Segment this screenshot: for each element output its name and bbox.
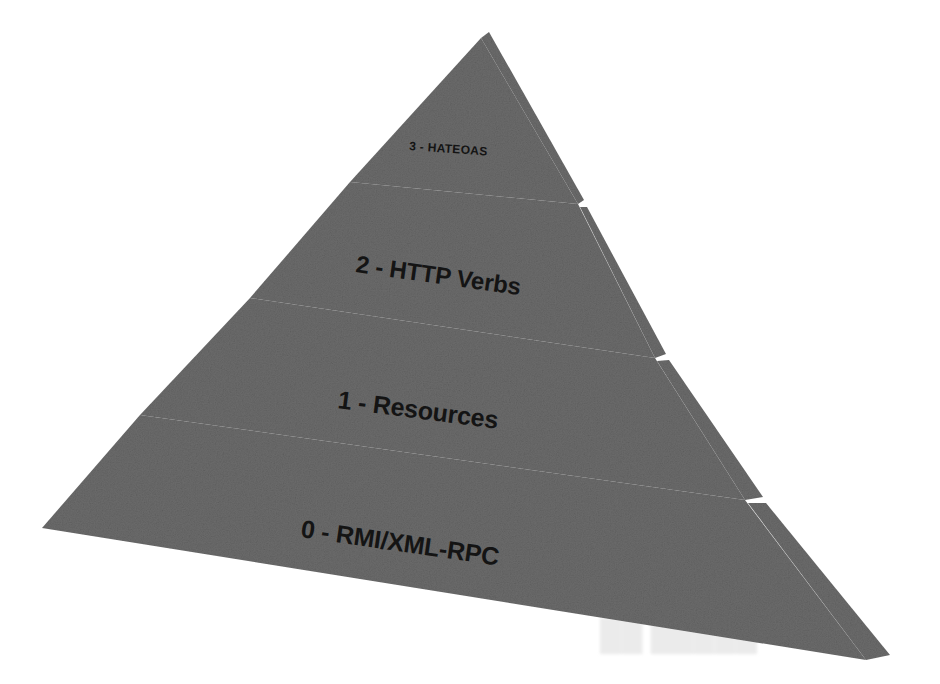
pyramid-diagram: ██ █████	[0, 0, 940, 684]
tier-3-shape[interactable]	[350, 38, 578, 204]
pyramid-canvas: ██ █████	[0, 0, 940, 684]
pyramid-tier-3[interactable]	[350, 38, 578, 204]
